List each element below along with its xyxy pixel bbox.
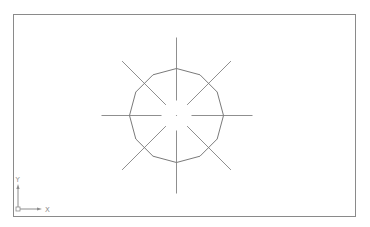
ucs-y-arrow-icon: [16, 184, 19, 189]
ucs-origin-box: [16, 207, 20, 211]
drawing-canvas[interactable]: X Y: [0, 0, 370, 227]
ucs-x-arrow-icon: [37, 207, 42, 210]
centerline-diagonal-135[interactable]: [122, 61, 166, 105]
ucs-x-label: X: [45, 206, 50, 214]
drawing-frame: [14, 15, 356, 217]
centerline-diagonal-45[interactable]: [187, 61, 231, 105]
center-point: [176, 115, 177, 116]
centerline-diagonal-45[interactable]: [122, 126, 166, 170]
ucs-icon: X Y: [15, 176, 51, 214]
centerline-diagonal-135[interactable]: [187, 126, 231, 170]
ucs-y-label: Y: [15, 176, 21, 184]
